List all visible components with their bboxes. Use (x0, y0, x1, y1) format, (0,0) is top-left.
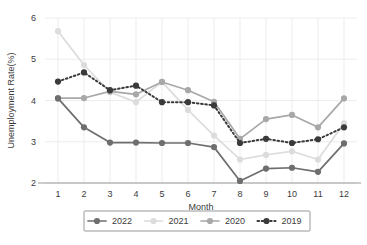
y-axis-tick-label: 4 (31, 96, 36, 106)
data-point-2019 (341, 124, 347, 130)
data-point-2019 (263, 136, 269, 142)
series-lines (55, 28, 347, 184)
x-axis-tick-label: 11 (313, 189, 322, 199)
data-point-2019 (55, 78, 61, 84)
chart-canvas: 23456 123456789101112 MonthUnemployment … (0, 0, 367, 245)
legend-label-2021[interactable]: 2021 (169, 216, 189, 226)
data-point-2020 (315, 124, 321, 130)
data-point-2019 (211, 102, 217, 108)
data-point-2019 (159, 99, 165, 105)
data-point-2022 (341, 140, 347, 146)
unemployment-rate-line-chart: 23456 123456789101112 MonthUnemployment … (0, 0, 367, 245)
legend-label-2019[interactable]: 2019 (282, 216, 302, 226)
data-point-2022 (55, 95, 61, 101)
data-point-2021 (185, 107, 191, 113)
data-point-2020 (133, 91, 139, 97)
y-axis-tick-label: 3 (31, 137, 36, 147)
data-point-2020 (263, 116, 269, 122)
data-point-2022 (211, 144, 217, 150)
legend-marker-2019 (263, 218, 269, 224)
x-axis-tick-label: 8 (237, 189, 242, 199)
data-point-2022 (107, 139, 113, 145)
data-point-2022 (159, 140, 165, 146)
data-point-2022 (315, 169, 321, 175)
x-axis-tick-label: 6 (185, 189, 190, 199)
data-point-2020 (341, 95, 347, 101)
y-axis-tick-label: 2 (31, 178, 36, 188)
x-axis-tick-label: 4 (133, 189, 138, 199)
legend-marker-2021 (150, 218, 156, 224)
data-point-2019 (315, 136, 321, 142)
y-axis-title: Unemployment Rate(%) (6, 52, 16, 148)
series-line-2022 (58, 98, 344, 181)
data-point-2021 (133, 99, 139, 105)
data-point-2021 (289, 148, 295, 154)
data-point-2020 (81, 95, 87, 101)
x-axis-tick-label: 3 (107, 189, 112, 199)
y-axis-tick-labels: 23456 (31, 13, 36, 188)
data-point-2019 (237, 140, 243, 146)
data-point-2019 (81, 69, 87, 75)
data-point-2019 (107, 87, 113, 93)
y-axis-tick-label: 6 (31, 13, 36, 23)
y-axis-tick-label: 5 (31, 54, 36, 64)
data-point-2022 (185, 140, 191, 146)
series-line-2019 (58, 72, 344, 143)
x-axis-title: Month (188, 202, 213, 212)
data-point-2021 (237, 156, 243, 162)
legend-marker-2020 (207, 218, 213, 224)
legend-label-2020[interactable]: 2020 (225, 216, 245, 226)
legend-label-2022[interactable]: 2022 (112, 216, 132, 226)
data-point-2021 (315, 156, 321, 162)
grid-lines (45, 18, 357, 183)
legend-marker-2022 (94, 218, 100, 224)
x-axis-tick-label: 9 (263, 189, 268, 199)
x-axis-tick-label: 12 (339, 189, 349, 199)
x-axis-tick-label: 2 (81, 189, 86, 199)
data-point-2020 (185, 87, 191, 93)
data-point-2021 (211, 132, 217, 138)
series-line-2020 (58, 82, 344, 139)
data-point-2022 (263, 165, 269, 171)
data-point-2019 (185, 99, 191, 105)
x-axis-tick-label: 7 (211, 189, 216, 199)
chart-legend[interactable]: 2022202120202019 (84, 211, 310, 231)
data-point-2022 (81, 124, 87, 130)
data-point-2020 (159, 79, 165, 85)
data-point-2019 (289, 140, 295, 146)
x-axis-tick-label: 10 (287, 189, 297, 199)
data-point-2020 (289, 112, 295, 118)
data-point-2022 (289, 165, 295, 171)
x-axis-tick-label: 5 (159, 189, 164, 199)
data-point-2019 (133, 83, 139, 89)
data-point-2021 (81, 62, 87, 68)
x-axis-tick-labels: 123456789101112 (55, 189, 349, 199)
data-point-2022 (237, 178, 243, 184)
data-point-2021 (55, 28, 61, 34)
data-point-2021 (263, 152, 269, 158)
data-point-2022 (133, 139, 139, 145)
x-axis-tick-label: 1 (55, 189, 60, 199)
